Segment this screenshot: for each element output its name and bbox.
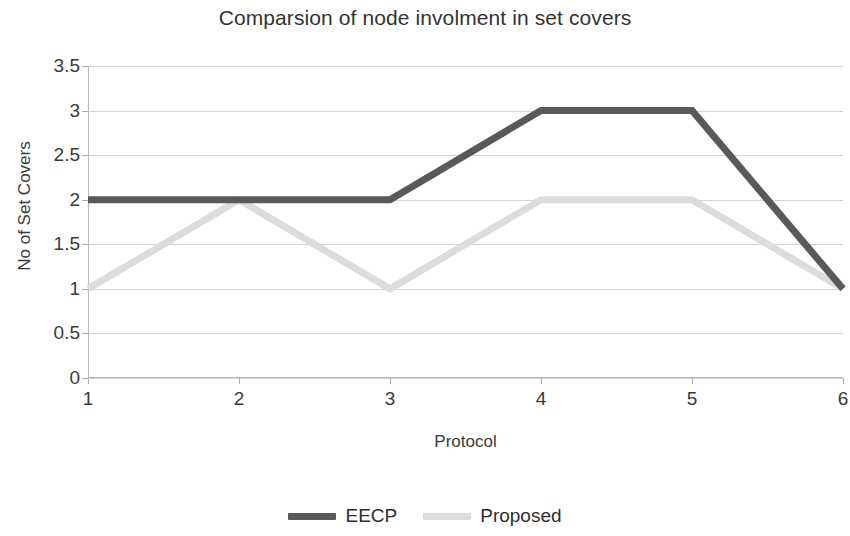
x-axis-title: Protocol — [88, 432, 843, 452]
y-axis-tick-label: 0.5 — [36, 322, 80, 344]
y-axis-tick-labels: 00.511.522.533.5 — [28, 66, 80, 378]
x-axis-tick-label: 1 — [68, 388, 108, 410]
y-axis-tick-label: 2.5 — [36, 144, 80, 166]
y-axis-tick-label: 3.5 — [36, 55, 80, 77]
legend-swatch-icon — [288, 513, 336, 520]
y-axis-tick-label: 0 — [36, 367, 80, 389]
legend-label: EECP — [345, 505, 397, 527]
legend-item-eecp[interactable]: EECP — [288, 505, 397, 527]
y-axis-tick-label: 3 — [36, 100, 80, 122]
legend-item-proposed[interactable]: Proposed — [423, 505, 561, 527]
x-axis-tick-label: 6 — [823, 388, 850, 410]
chart-legend: EECPProposed — [0, 505, 850, 527]
x-axis-tick-label: 4 — [521, 388, 561, 410]
x-axis-tick — [390, 378, 391, 384]
x-axis-tick-label: 5 — [672, 388, 712, 410]
series-lines — [88, 66, 843, 378]
gridline — [88, 378, 843, 379]
plot-area — [88, 66, 843, 378]
legend-label: Proposed — [480, 505, 561, 527]
x-axis-tick — [843, 378, 844, 384]
chart-title: Comparsion of node involment in set cove… — [0, 6, 850, 30]
x-axis-tick-label: 3 — [370, 388, 410, 410]
series-line-proposed — [88, 200, 843, 289]
y-axis-tick-label: 1 — [36, 278, 80, 300]
x-axis-tick — [692, 378, 693, 384]
y-axis-tick-label: 2 — [36, 189, 80, 211]
legend-swatch-icon — [423, 513, 471, 520]
x-axis-tick — [239, 378, 240, 384]
series-line-eecp — [88, 111, 843, 289]
x-axis-tick — [541, 378, 542, 384]
x-axis-tick-label: 2 — [219, 388, 259, 410]
x-axis-tick-labels: 123456 — [88, 388, 843, 416]
x-axis-tick — [88, 378, 89, 384]
line-chart: Comparsion of node involment in set cove… — [0, 0, 850, 536]
y-axis-tick-label: 1.5 — [36, 233, 80, 255]
